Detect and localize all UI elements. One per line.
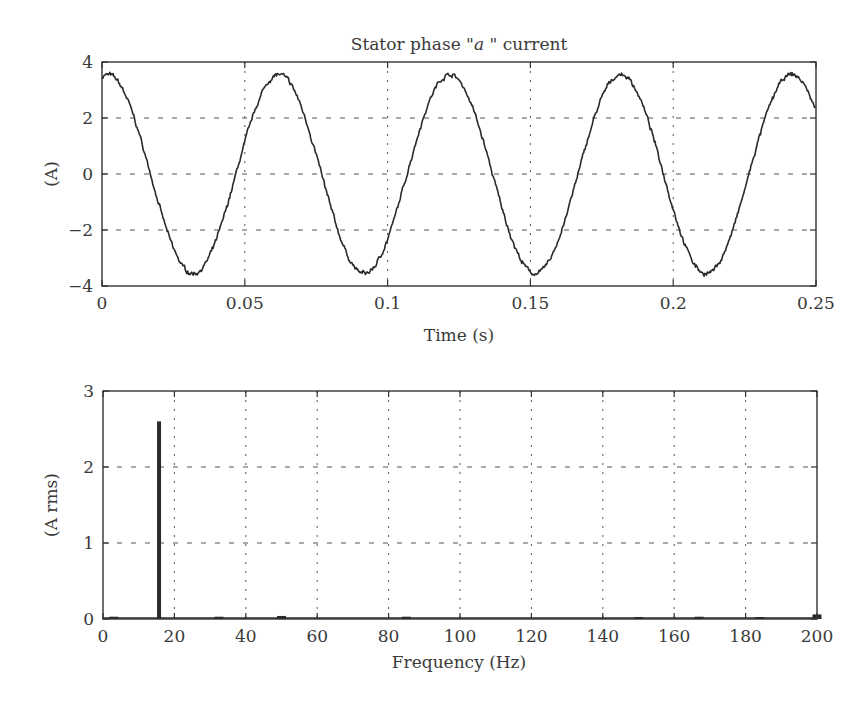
grid-lines <box>103 391 817 619</box>
y-tick-label: 3 <box>83 381 94 401</box>
spectrum-bar <box>157 421 161 619</box>
y-tick-labels: −4−2024 <box>68 52 93 296</box>
x-tick-label: 120 <box>515 626 547 646</box>
y-tick-label: 0 <box>82 164 93 184</box>
x-tick-label: 0.25 <box>797 293 835 313</box>
y-axis-label: (A rms) <box>41 473 61 537</box>
x-tick-label: 160 <box>658 626 690 646</box>
x-tick-label: 0.2 <box>660 293 687 313</box>
tick-marks <box>103 391 817 619</box>
grid-lines <box>102 62 816 286</box>
x-tick-label: 0.1 <box>374 293 401 313</box>
y-tick-label: −2 <box>68 220 93 240</box>
axes-frame <box>103 391 817 619</box>
x-tick-label: 180 <box>729 626 761 646</box>
figure: 00.050.10.150.20.25 −4−2024 Stator phase… <box>0 0 866 708</box>
x-tick-label: 0 <box>97 293 108 313</box>
x-tick-label: 0 <box>98 626 109 646</box>
y-axis-label: (A) <box>41 161 61 187</box>
x-tick-label: 200 <box>801 626 833 646</box>
y-tick-label: 4 <box>82 52 93 72</box>
x-axis-label: Frequency (Hz) <box>392 652 526 672</box>
y-tick-label: −4 <box>68 276 93 296</box>
chart-title: Stator phase "a " current <box>351 34 568 54</box>
spectrum-bars <box>103 421 822 619</box>
x-tick-label: 60 <box>306 626 328 646</box>
y-tick-label: 2 <box>83 457 94 477</box>
x-tick-label: 100 <box>444 626 476 646</box>
y-tick-labels: 0123 <box>83 381 94 629</box>
x-tick-label: 0.05 <box>226 293 264 313</box>
x-tick-labels: 00.050.10.150.20.25 <box>97 293 835 313</box>
x-tick-labels: 020406080100120140160180200 <box>98 626 834 646</box>
y-tick-label: 2 <box>82 108 93 128</box>
x-tick-label: 20 <box>164 626 186 646</box>
x-tick-label: 40 <box>235 626 257 646</box>
frequency-spectrum-plot: 020406080100120140160180200 0123 Frequen… <box>41 381 833 672</box>
x-tick-label: 0.15 <box>511 293 549 313</box>
chart-canvas: 00.050.10.150.20.25 −4−2024 Stator phase… <box>0 0 866 708</box>
y-tick-label: 0 <box>83 609 94 629</box>
y-tick-label: 1 <box>83 533 94 553</box>
time-domain-plot: 00.050.10.150.20.25 −4−2024 Stator phase… <box>41 34 835 345</box>
x-tick-label: 140 <box>587 626 619 646</box>
x-axis-label: Time (s) <box>424 325 494 345</box>
x-tick-label: 80 <box>378 626 400 646</box>
